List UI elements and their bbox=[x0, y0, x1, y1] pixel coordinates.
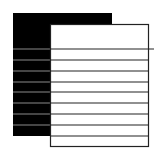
documents-stack-icon bbox=[0, 0, 154, 153]
front-page bbox=[51, 25, 149, 147]
